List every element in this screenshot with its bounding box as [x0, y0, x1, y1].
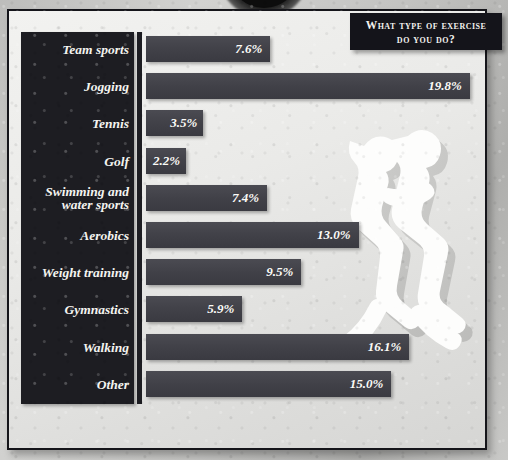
bar-category-label-line1: Tennis — [92, 117, 129, 130]
bar-category-label-line1: Golf — [104, 155, 129, 168]
bar-row: Gymnastics5.9% — [14, 292, 466, 327]
bar-row: Golf2.2% — [14, 144, 466, 179]
bar-category-label-line1: Gymnastics — [64, 303, 129, 316]
bar-chart: Team sports7.6%Jogging19.8%Tennis3.5%Gol… — [14, 26, 466, 411]
bar: 7.4% — [146, 185, 267, 211]
bar: 3.5% — [146, 110, 203, 136]
bar-value-label: 9.5% — [266, 264, 301, 280]
bar: 19.8% — [146, 73, 470, 99]
bar-category-label: Jogging — [21, 69, 129, 104]
bar-category-label-line2: water sports — [62, 198, 129, 212]
bar-category-label: Golf — [21, 144, 129, 179]
bar-category-label-line1: Jogging — [84, 80, 129, 93]
bar-value-label: 15.0% — [350, 376, 392, 392]
bar-row: Other15.0% — [14, 367, 466, 402]
bar: 13.0% — [146, 222, 359, 248]
chart-title-line2: do you do? — [397, 33, 455, 45]
bar-category-label: Aerobics — [21, 218, 129, 253]
bar-category-label: Walking — [21, 330, 129, 365]
bar-value-label: 16.1% — [368, 339, 410, 355]
bar-value-label: 7.4% — [232, 190, 267, 206]
bar-category-label-line1: Swimming and — [45, 185, 129, 199]
bar: 15.0% — [146, 371, 391, 397]
bar-category-label: Swimming andwater sports — [21, 181, 129, 216]
bar-value-label: 2.2% — [153, 153, 186, 169]
bar-category-label: Tennis — [21, 106, 129, 141]
bar: 7.6% — [146, 36, 270, 62]
bar-category-label: Gymnastics — [21, 292, 129, 327]
bar-row: Weight training9.5% — [14, 255, 466, 290]
bar: 16.1% — [146, 334, 409, 360]
bar-value-label: 19.8% — [428, 78, 470, 94]
bar-category-label: Weight training — [21, 255, 129, 290]
bar-row: Walking16.1% — [14, 330, 466, 365]
bar-category-label-line1: Team sports — [62, 43, 129, 56]
bar: 2.2% — [146, 148, 186, 174]
bar: 5.9% — [146, 296, 242, 322]
chart-title-box: What type of exercise do you do? — [350, 13, 502, 50]
bar-category-label-line1: Weight training — [42, 266, 129, 279]
bar-value-label: 13.0% — [317, 227, 359, 243]
bar-category-label: Team sports — [21, 32, 129, 67]
bar: 9.5% — [146, 259, 301, 285]
bar-value-label: 7.6% — [235, 41, 270, 57]
bar-category-label: Other — [21, 367, 129, 402]
bar-row: Aerobics13.0% — [14, 218, 466, 253]
bar-value-label: 5.9% — [207, 301, 242, 317]
bar-row: Jogging19.8% — [14, 69, 466, 104]
chart-title: What type of exercise do you do? — [360, 18, 493, 46]
bar-category-label-line1: Walking — [83, 341, 129, 354]
bar-row: Swimming andwater sports7.4% — [14, 181, 466, 216]
bar-category-label-line1: Other — [97, 378, 129, 391]
bar-row: Tennis3.5% — [14, 106, 466, 141]
bar-category-label-line1: Aerobics — [80, 229, 129, 242]
chart-title-line1: What type of exercise — [366, 19, 487, 31]
bar-value-label: 3.5% — [170, 115, 203, 131]
poster-scene: What type of exercise do you do? Team sp… — [0, 0, 508, 460]
